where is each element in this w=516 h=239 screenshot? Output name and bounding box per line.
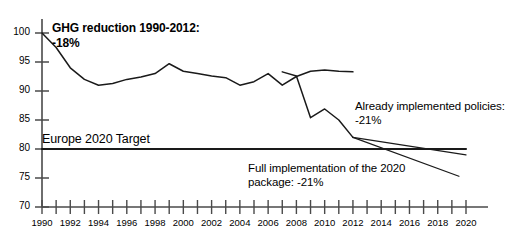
y-axis-tick-label: 90 xyxy=(4,84,30,95)
y-axis-tick-label: 70 xyxy=(4,200,30,211)
x-axis-tick-label: 2004 xyxy=(224,217,256,228)
annotation-ghg-reduction: GHG reduction 1990-2012: -18% xyxy=(52,21,200,51)
x-axis-tick-label: 1996 xyxy=(111,217,143,228)
y-axis-tick-label: 85 xyxy=(4,113,30,124)
x-axis-tick-label: 1998 xyxy=(139,217,171,228)
x-axis-tick-label: 2020 xyxy=(450,217,482,228)
x-axis-tick-label: 2006 xyxy=(252,217,284,228)
annotation-already-implemented-policies: Already implemented policies: -21% xyxy=(355,100,505,127)
x-axis-tick-label: 2016 xyxy=(393,217,425,228)
y-axis-tick-label: 80 xyxy=(4,142,30,153)
annotation-full-implementation: Full implementation of the 2020 package:… xyxy=(248,162,405,189)
y-axis-tick-label: 95 xyxy=(4,55,30,66)
ghg-emissions-chart: GHG reduction 1990-2012: -18% Europe 202… xyxy=(0,0,516,239)
x-axis-tick-label: 1990 xyxy=(26,217,58,228)
x-axis-tick-label: 2008 xyxy=(280,217,312,228)
x-axis-tick-label: 2002 xyxy=(196,217,228,228)
x-axis-tick-label: 2014 xyxy=(365,217,397,228)
x-axis-tick-label: 2010 xyxy=(309,217,341,228)
annotation-europe-2020-target: Europe 2020 Target xyxy=(42,133,150,147)
y-axis-tick-label: 100 xyxy=(4,26,30,37)
series-line-already-implemented-policies xyxy=(353,137,466,154)
y-axis-tick-label: 75 xyxy=(4,171,30,182)
series-line-ghg-emissions-crisis xyxy=(282,72,353,138)
x-axis-tick-label: 2018 xyxy=(422,217,454,228)
x-axis-tick-label: 1994 xyxy=(83,217,115,228)
x-axis-tick-label: 2000 xyxy=(167,217,199,228)
x-axis-tick-label: 2012 xyxy=(337,217,369,228)
x-axis-tick-label: 1992 xyxy=(54,217,86,228)
